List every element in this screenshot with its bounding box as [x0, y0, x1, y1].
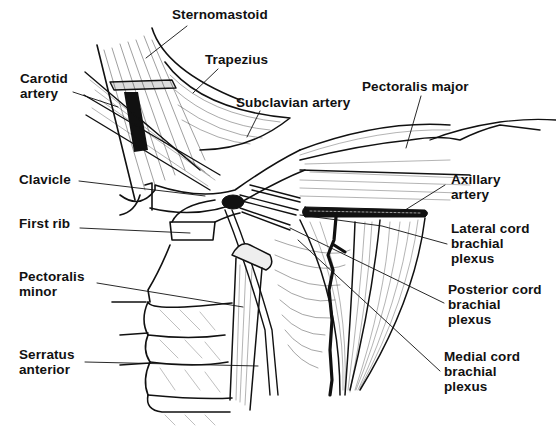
label-axillary-artery: Axillary artery: [451, 172, 501, 202]
pectoralis-major-muscle: [300, 124, 540, 175]
label-sternomastoid: Sternomastoid: [172, 7, 268, 22]
label-pectoralis-major: Pectoralis major: [362, 79, 469, 94]
label-first-rib: First rib: [19, 216, 70, 231]
label-posterior-cord: Posterior cord brachial plexus: [448, 282, 542, 327]
leader-first-rib: [80, 228, 190, 233]
leader-clavicle: [79, 181, 205, 196]
leader-subclavian: [247, 111, 260, 137]
leader-posterior-cord: [290, 228, 444, 303]
arm-muscles: [300, 218, 425, 395]
leader-pectoralis-minor: [97, 283, 243, 307]
label-lateral-cord: Lateral cord brachial plexus: [451, 221, 529, 266]
label-clavicle: Clavicle: [19, 172, 71, 187]
label-carotid-artery: Carotid artery: [20, 71, 68, 101]
serratus-anterior-muscle: [275, 240, 350, 368]
brachial-plexus-cords: [225, 185, 300, 395]
label-pectoralis-minor: Pectoralis minor: [19, 269, 85, 299]
axillary-artery-vessel: [303, 207, 428, 217]
subclavian-artery-vessel: [222, 195, 244, 209]
label-medial-cord: Medial cord brachial plexus: [444, 349, 520, 394]
label-subclavian-artery: Subclavian artery: [236, 95, 350, 110]
label-serratus-anterior: Serratus anterior: [19, 347, 75, 377]
anatomy-diagram: Sternomastoid Trapezius Carotid artery S…: [0, 0, 556, 442]
label-trapezius: Trapezius: [205, 52, 268, 67]
leader-trapezius: [193, 69, 218, 93]
leader-axillary: [402, 185, 445, 212]
leader-medial-cord: [298, 240, 440, 371]
